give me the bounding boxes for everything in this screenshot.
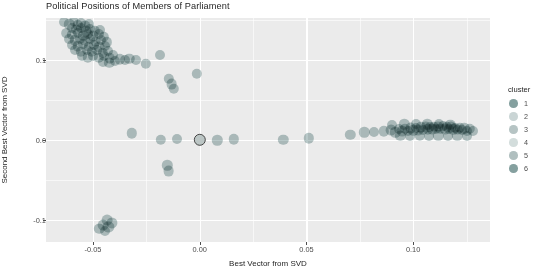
y-axis-title: Second Best Vector from SVD (0, 76, 9, 183)
x-axis-title: Best Vector from SVD (229, 259, 307, 268)
gridline-major-vertical (306, 18, 307, 242)
legend-dot-icon (509, 125, 518, 134)
page-title: Political Positions of Members of Parlia… (46, 1, 230, 11)
data-point[interactable] (462, 131, 472, 141)
legend-item-label: 3 (524, 125, 528, 134)
legend-swatch (507, 123, 520, 136)
legend-item-label: 5 (524, 151, 528, 160)
gridline-minor-vertical (146, 18, 147, 242)
y-tick-label: 0.0 (36, 135, 46, 144)
legend-dot-icon (509, 138, 518, 147)
legend-item-label: 1 (524, 99, 528, 108)
data-point[interactable] (127, 128, 137, 138)
legend-item-label: 2 (524, 112, 528, 121)
data-point[interactable] (155, 50, 165, 60)
legend-item[interactable]: 6 (507, 162, 553, 175)
data-point[interactable] (141, 59, 151, 69)
legend-swatch (507, 97, 520, 110)
data-point-selected[interactable] (193, 133, 205, 145)
legend-item[interactable]: 2 (507, 110, 553, 123)
legend-item[interactable]: 5 (507, 149, 553, 162)
data-point[interactable] (100, 226, 110, 236)
legend-swatch (507, 136, 520, 149)
legend-swatch (507, 162, 520, 175)
x-tick-label: 0.00 (192, 245, 206, 254)
legend-dot-icon (509, 164, 518, 173)
data-point[interactable] (131, 55, 141, 65)
gridline-minor-vertical (253, 18, 254, 242)
data-point[interactable] (303, 133, 313, 143)
data-point[interactable] (163, 166, 174, 177)
legend-title: cluster (508, 85, 553, 94)
gridline-major-horizontal (46, 140, 490, 141)
legend-item[interactable]: 3 (507, 123, 553, 136)
data-point[interactable] (359, 127, 369, 137)
data-point[interactable] (156, 135, 166, 145)
legend-item-label: 6 (524, 164, 528, 173)
gridline-minor-horizontal (46, 20, 490, 21)
data-point[interactable] (411, 119, 421, 129)
data-point[interactable] (229, 134, 239, 144)
data-point[interactable] (345, 129, 355, 139)
legend-dot-icon (509, 112, 518, 121)
data-point[interactable] (278, 134, 288, 144)
data-point[interactable] (387, 120, 397, 130)
gridline-major-vertical (200, 18, 201, 242)
x-tick-label: 0.10 (406, 245, 420, 254)
chart-root: Political Positions of Members of Parlia… (0, 0, 558, 280)
data-point[interactable] (434, 119, 444, 129)
gridline-minor-horizontal (46, 100, 490, 101)
y-tick-label: 0.1 (36, 55, 46, 64)
legend-item[interactable]: 4 (507, 136, 553, 149)
legend-swatch (507, 110, 520, 123)
legend-item[interactable]: 1 (507, 97, 553, 110)
legend: cluster 123456 (507, 85, 553, 175)
y-tick-label: -0.1 (33, 215, 46, 224)
data-point[interactable] (212, 135, 222, 145)
legend-entries: 123456 (507, 97, 553, 175)
legend-dot-icon (509, 151, 518, 160)
x-tick-label: 0.05 (299, 245, 313, 254)
legend-dot-icon (509, 99, 518, 108)
legend-swatch (507, 149, 520, 162)
gridline-minor-horizontal (46, 180, 490, 181)
plot-panel[interactable] (46, 18, 490, 242)
legend-item-label: 4 (524, 138, 528, 147)
data-point[interactable] (168, 83, 178, 93)
x-tick-label: -0.05 (85, 245, 102, 254)
data-point[interactable] (172, 134, 182, 144)
